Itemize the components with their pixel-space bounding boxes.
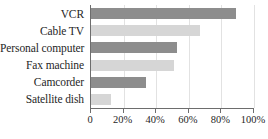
bar-personal-computer xyxy=(91,42,177,53)
category-axis-labels: VCR Cable TV Personal computer Fax machi… xyxy=(0,5,88,108)
x-tick-mark xyxy=(90,109,91,113)
category-label-camcorder: Camcorder xyxy=(0,76,88,88)
bar-row xyxy=(91,56,254,73)
x-tick-mark xyxy=(123,109,124,113)
category-label-cable-tv: Cable TV xyxy=(0,25,88,37)
bar-chart: VCR Cable TV Personal computer Fax machi… xyxy=(0,0,268,139)
x-tick-label: 20% xyxy=(113,114,132,126)
bar-fax-machine xyxy=(91,60,174,71)
value-axis: 020%40%60%80%100% xyxy=(90,109,253,139)
x-tick-label: 60% xyxy=(178,114,197,126)
bar-camcorder xyxy=(91,77,146,88)
bar-satellite-dish xyxy=(91,94,111,105)
x-tick-label: 40% xyxy=(146,114,165,126)
bar-row xyxy=(91,91,254,108)
category-label-satellite-dish: Satellite dish xyxy=(0,93,88,105)
bar-cable-tv xyxy=(91,25,200,36)
bar-row xyxy=(91,74,254,91)
bar-series xyxy=(91,5,254,108)
x-tick-mark xyxy=(155,109,156,113)
bar-row xyxy=(91,5,254,22)
category-label-fax-machine: Fax machine xyxy=(0,59,88,71)
x-tick-mark xyxy=(188,109,189,113)
x-tick-mark xyxy=(253,109,254,113)
bar-vcr xyxy=(91,8,236,19)
category-label-personal-computer: Personal computer xyxy=(0,42,88,54)
x-tick-label: 80% xyxy=(211,114,230,126)
bar-row xyxy=(91,22,254,39)
plot-area xyxy=(90,5,254,109)
x-tick-mark xyxy=(220,109,221,113)
gridline xyxy=(254,5,255,108)
x-tick-label: 0 xyxy=(87,114,92,126)
x-tick-label: 100% xyxy=(241,114,266,126)
bar-row xyxy=(91,39,254,56)
category-label-vcr: VCR xyxy=(0,8,88,20)
